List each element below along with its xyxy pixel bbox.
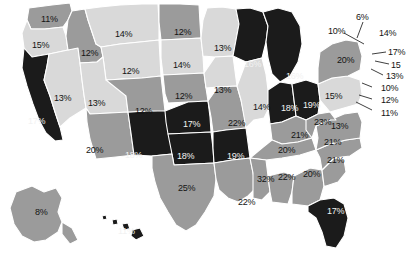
state-label-al: 22% [278,173,295,182]
callout-label-me: 14% [379,29,396,38]
state-label-nc: 21% [324,138,341,147]
state-label-in: 18% [281,104,298,113]
state-label-ne: 12% [175,92,192,101]
state-label-az: 20% [86,146,103,155]
state-label-pa: 15% [325,92,342,101]
state-ks[interactable] [165,101,211,134]
map-svg [0,0,408,269]
state-label-nv: 13% [54,94,71,103]
state-label-il: 14% [253,103,270,112]
state-label-sd: 14% [173,61,190,70]
state-label-oh: 19% [303,101,320,110]
callout-label-ri: 15 [391,61,401,70]
state-label-tn: 20% [278,146,295,155]
state-label-nd: 12% [174,28,191,37]
state-label-co: 12% [135,107,152,116]
state-label-ks: 17% [183,120,200,129]
state-label-ky: 21% [291,131,308,140]
state-label-mn: 13% [214,44,231,53]
state-label-ak: 8% [35,208,48,217]
state-label-mi: 16% [286,72,303,81]
callout-label-vt: 6% [356,13,369,22]
callout-label-ct: 13% [386,72,403,81]
state-label-wy: 12% [122,67,139,76]
state-label-fl: 17% [327,207,344,216]
state-mt[interactable] [85,4,159,47]
state-label-wi: 16% [244,60,261,69]
state-label-wv: 23% [314,118,331,127]
state-label-mo: 22% [228,119,245,128]
callout-label-nh: 10% [328,27,345,36]
callout-label-nj: 10% [381,84,398,93]
state-wi[interactable] [233,8,268,62]
state-label-tx: 25% [178,184,195,193]
state-label-or: 15% [32,41,49,50]
leader-line-ri [375,61,389,64]
leader-line-ma [372,52,386,54]
state-label-sc: 21% [327,156,344,165]
state-label-nm: 18% [125,151,142,160]
state-label-ar: 19% [227,152,244,161]
state-la[interactable] [214,158,256,202]
state-label-wa: 11% [41,15,58,24]
state-label-id: 12% [81,49,98,58]
callout-label-md: 11% [381,109,398,118]
state-label-ok: 18% [177,152,194,161]
leader-line-vt [357,22,363,38]
state-label-mt: 14% [115,30,132,39]
state-label-ut: 13% [88,99,105,108]
state-label-ca: 17% [28,117,45,126]
state-label-hi: 11% [118,227,135,236]
state-label-ga: 20% [303,170,320,179]
state-label-la: 22% [238,198,255,207]
state-ia[interactable] [204,56,237,88]
state-label-ia: 13% [214,86,231,95]
leader-line-nj [362,83,372,87]
state-label-ny: 20% [337,56,354,65]
us-choropleth-map: 11%15%17%13%12%14%12%13%20%18%12%12%14%1… [0,0,408,269]
state-label-ms: 32% [257,175,274,184]
callout-label-de: 12% [381,96,398,105]
state-label-va: 13% [331,122,348,131]
leader-line-md [356,102,372,110]
callout-label-ma: 17% [388,48,405,57]
leader-line-ct [371,69,383,75]
